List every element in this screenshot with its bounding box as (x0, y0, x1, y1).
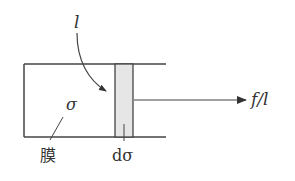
force-label: f/l (249, 89, 268, 109)
length-label: l (74, 12, 79, 32)
film-label: 膜 (40, 146, 56, 165)
surface-tension-label: σ (66, 95, 78, 114)
film-diagram: l σ 膜 dσ f/l (0, 0, 295, 181)
increment-label: dσ (112, 146, 133, 165)
length-pointer-arrow (77, 33, 106, 91)
